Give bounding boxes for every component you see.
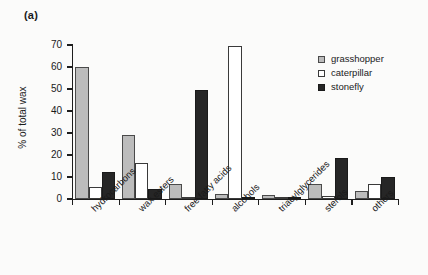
x-tick-mark	[305, 200, 306, 205]
panel-label: (a)	[24, 9, 38, 21]
y-tick-label: 50	[22, 84, 62, 94]
legend-label-grasshopper: grasshopper	[331, 54, 384, 64]
bar-grasshopper-alcohols	[215, 194, 228, 200]
legend-label-caterpillar: caterpillar	[331, 68, 372, 78]
bar-grasshopper-triacylglycerides	[262, 195, 275, 199]
y-tick-label: 40	[22, 106, 62, 116]
figure-panel-a: (a) % of total wax 010203040506070 hydro…	[0, 0, 428, 275]
y-tick-label: 60	[22, 62, 62, 72]
x-tick-mark	[119, 200, 120, 205]
y-tick-label: 10	[22, 172, 62, 182]
legend-swatch-caterpillar	[318, 70, 325, 77]
y-tick-label: 20	[22, 150, 62, 160]
legend-swatch-stonefly	[318, 84, 325, 91]
bar-grasshopper-hydrocarbons	[75, 67, 88, 199]
y-tick-label: 70	[22, 40, 62, 50]
x-tick-mark	[212, 200, 213, 205]
legend-item-caterpillar: caterpillar	[318, 66, 384, 80]
legend-label-stonefly: stonefly	[331, 82, 364, 92]
y-tick-label: 0	[22, 194, 62, 204]
x-tick-mark	[72, 200, 73, 205]
y-tick-label: 30	[22, 128, 62, 138]
legend-item-stonefly: stonefly	[318, 80, 384, 94]
legend-item-grasshopper: grasshopper	[318, 52, 384, 66]
x-tick-mark	[165, 200, 166, 205]
bar-grasshopper-others	[355, 191, 368, 199]
x-tick-mark	[398, 200, 399, 205]
x-tick-mark	[258, 200, 259, 205]
x-tick-mark	[351, 200, 352, 205]
bar-caterpillar-alcohols	[228, 46, 241, 199]
legend-swatch-grasshopper	[318, 56, 325, 63]
chart-legend: grasshoppercaterpillarstonefly	[318, 52, 384, 94]
